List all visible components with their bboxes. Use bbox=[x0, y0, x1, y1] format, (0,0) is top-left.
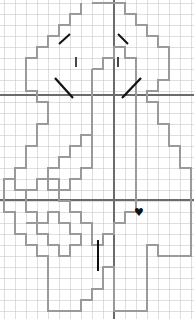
pixel-figure-diagram: ♥ bbox=[0, 0, 194, 319]
heart-icon: ♥ bbox=[134, 206, 144, 219]
canvas-background bbox=[0, 0, 194, 319]
diagram-canvas: ♥ bbox=[0, 0, 194, 319]
symbols-group: ♥ bbox=[134, 206, 144, 219]
